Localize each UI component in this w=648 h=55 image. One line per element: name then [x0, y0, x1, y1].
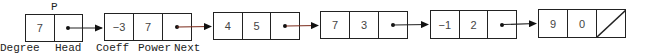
label-coeff: Coeff	[96, 42, 129, 54]
label-power: Power	[138, 42, 171, 54]
label-degree: Degree	[0, 42, 40, 54]
label-head: Head	[55, 42, 81, 54]
label-next: Next	[174, 42, 200, 54]
